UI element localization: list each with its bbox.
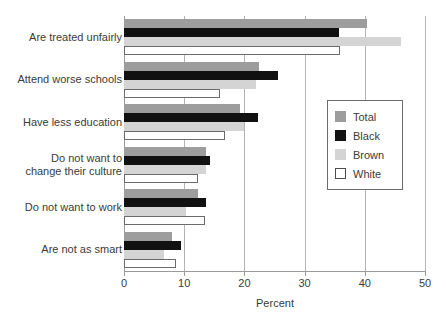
bar-black (124, 71, 278, 80)
x-axis-tick (425, 271, 426, 276)
bar-brown (124, 165, 206, 174)
bar-group (124, 232, 425, 268)
x-axis-tick (184, 271, 185, 276)
category-label: Do not want tochange their culture (6, 152, 122, 178)
x-axis-tick (244, 271, 245, 276)
x-axis-tick-label: 40 (359, 277, 371, 289)
x-axis-tick-label: 0 (121, 277, 127, 289)
legend-item-total: Total (335, 107, 396, 126)
legend-label: Total (353, 111, 376, 123)
x-axis-tick (305, 271, 306, 276)
legend-item-white: White (335, 164, 396, 183)
legend-swatch-icon (335, 130, 346, 141)
bar-black (124, 156, 210, 165)
bar-total (124, 19, 367, 28)
bar-brown (124, 80, 256, 89)
bar-total (124, 232, 172, 241)
x-axis-line (124, 271, 426, 272)
category-label-line: Do not want to (6, 152, 122, 165)
gridline (425, 16, 426, 271)
legend-swatch-icon (335, 168, 346, 179)
legend-swatch-icon (335, 111, 346, 122)
x-axis-tick-label: 30 (298, 277, 310, 289)
bar-total (124, 189, 198, 198)
bar-brown (124, 122, 244, 131)
x-axis-title: Percent (124, 297, 426, 309)
bar-group (124, 189, 425, 225)
bar-brown (124, 250, 164, 259)
bar-total (124, 62, 259, 71)
bar-white (124, 46, 340, 55)
bar-white (124, 259, 176, 268)
legend-label: Black (353, 130, 380, 142)
category-label: Have less education (6, 116, 122, 129)
bar-brown (124, 207, 186, 216)
category-label-line: Do not want to work (6, 201, 122, 214)
legend-item-black: Black (335, 126, 396, 145)
bar-black (124, 241, 181, 250)
bar-total (124, 147, 206, 156)
category-label: Attend worse schools (6, 73, 122, 86)
bar-group (124, 62, 425, 98)
category-label: Are treated unfairly (6, 31, 122, 44)
category-label-line: Are not as smart (6, 243, 122, 256)
category-label: Do not want to work (6, 201, 122, 214)
bar-white (124, 131, 225, 140)
bar-total (124, 104, 240, 113)
legend-swatch-icon (335, 149, 346, 160)
x-axis-tick-label: 20 (238, 277, 250, 289)
x-axis-tick-label: 10 (178, 277, 190, 289)
category-label-line: Attend worse schools (6, 73, 122, 86)
bar-group (124, 19, 425, 55)
bar-white (124, 89, 220, 98)
bar-chart: 01020304050 Are treated unfairlyAttend w… (0, 0, 446, 320)
category-label-line: change their culture (6, 165, 122, 178)
category-label: Are not as smart (6, 243, 122, 256)
category-label-line: Have less education (6, 116, 122, 129)
legend-label: Brown (353, 149, 384, 161)
x-axis-tick-label: 50 (419, 277, 431, 289)
x-axis-tick (124, 271, 125, 276)
legend-label: White (353, 168, 381, 180)
bar-black (124, 198, 206, 207)
bar-white (124, 174, 198, 183)
bar-black (124, 113, 258, 122)
bar-white (124, 216, 205, 225)
legend-item-brown: Brown (335, 145, 396, 164)
x-axis-tick (365, 271, 366, 276)
chart-legend: TotalBlackBrownWhite (327, 100, 403, 190)
bar-black (124, 28, 339, 37)
category-label-line: Are treated unfairly (6, 31, 122, 44)
bar-brown (124, 37, 401, 46)
